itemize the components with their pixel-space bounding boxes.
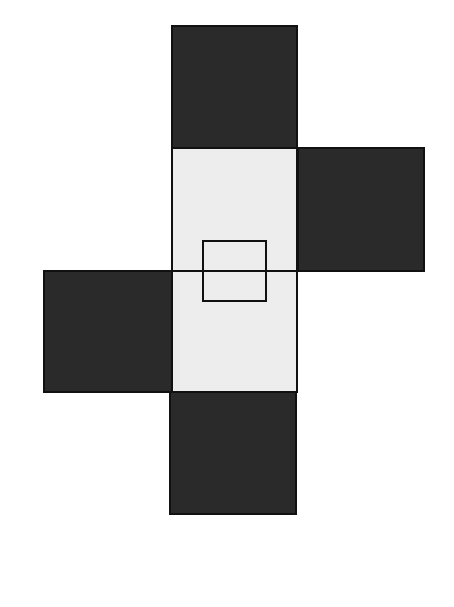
top-square: [171, 25, 298, 149]
inner-rectangle: [202, 240, 267, 302]
right-square: [297, 147, 425, 272]
left-square: [43, 270, 173, 393]
bottom-square: [169, 391, 297, 515]
